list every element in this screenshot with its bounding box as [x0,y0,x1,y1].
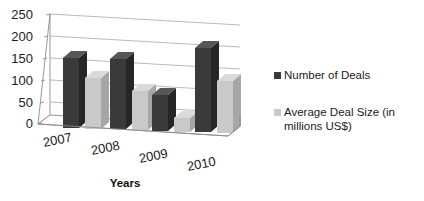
x-tick-label-2007: 2007 [42,130,73,150]
bar-2009-number-of-deals[interactable] [152,88,176,131]
bar-2007-number-of-deals[interactable] [63,51,87,128]
legend-label-average-deal-size-line2: millions US$) [284,120,352,132]
y-tick-label-0: 0 [26,116,33,131]
bar-2007-average-deal-size[interactable] [85,71,109,129]
y-tick-label-100: 100 [11,73,33,88]
legend-label-average-deal-size-line1: Average Deal Size (in [284,106,395,118]
chart-legend: Number of Deals Average Deal Size (in mi… [274,69,395,132]
x-tick-label-2010: 2010 [186,154,217,174]
bar-group-2010 [195,41,241,133]
legend-label-number-of-deals: Number of Deals [284,69,371,81]
chart-container: 250 200 150 100 50 0 [0,0,424,201]
bar-2008-number-of-deals[interactable] [110,52,134,129]
bar-front-face [110,59,126,129]
legend-marker-icon [274,109,281,116]
x-axis-title: Years [110,177,141,189]
gridline-250 [50,14,240,25]
y-tick-label-200: 200 [11,29,33,44]
x-tick-label-2009: 2009 [138,146,169,166]
bar-2010-average-deal-size[interactable] [217,74,241,133]
y-tick-label-150: 150 [11,51,33,66]
legend-item-number-of-deals[interactable]: Number of Deals [274,69,371,81]
bar-side-face [101,71,109,129]
bar-chart-3d: 250 200 150 100 50 0 [0,0,424,201]
legend-marker-icon [274,72,281,79]
y-axis-labels: 250 200 150 100 50 0 [11,7,33,131]
bar-front-face [195,48,211,132]
x-tick-label-2008: 2008 [90,138,121,158]
bar-front-face [132,91,148,130]
bar-front-face [152,95,168,131]
y-axis-line [38,14,50,124]
bar-front-face [217,81,233,133]
y-tick-label-50: 50 [19,95,33,110]
bar-2010-number-of-deals[interactable] [195,41,219,132]
plot-frame [38,14,50,124]
x-axis-labels: 2007 2008 2009 2010 [42,130,217,174]
legend-item-average-deal-size[interactable]: Average Deal Size (in millions US$) [274,106,395,132]
bar-front-face [174,118,190,132]
bar-front-face [63,58,79,128]
y-tick-label-250: 250 [11,7,33,22]
bar-front-face [85,78,101,129]
bar-group-2007 [63,51,109,129]
